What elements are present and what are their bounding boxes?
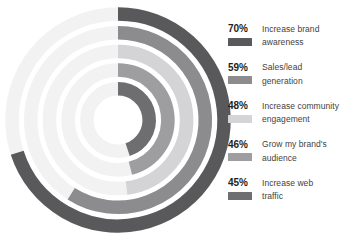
- legend-label-line-1: Increase web: [262, 177, 362, 191]
- legend-key: 70%: [228, 22, 262, 46]
- ring-value-arc[interactable]: Increase web traffic 45%: [118, 89, 149, 150]
- legend-label-line-2: engagement: [262, 113, 362, 127]
- legend-percent: 59%: [228, 61, 248, 74]
- legend-label-line-1: Sales/lead: [262, 61, 362, 75]
- legend-label-line-2: traffic: [262, 190, 362, 204]
- legend-item[interactable]: 48% Increase community engagement: [228, 99, 362, 132]
- legend-key: 45%: [228, 176, 262, 200]
- legend-key: 48%: [228, 99, 262, 123]
- legend-label: Increase brand awareness: [262, 22, 362, 50]
- legend-percent: 45%: [228, 176, 248, 189]
- legend-label: Sales/lead generation: [262, 61, 362, 89]
- radial-bar-chart-figure: Increase brand awareness 70%Sales/lead g…: [0, 0, 362, 236]
- legend-percent: 70%: [228, 22, 248, 35]
- legend-label-line-1: Increase community: [262, 100, 362, 114]
- radial-bar-svg: Increase brand awareness 70%Sales/lead g…: [0, 0, 236, 236]
- chart-legend: 70% Increase brand awareness 59% Sales/l…: [228, 22, 362, 222]
- legend-label-line-2: audience: [262, 152, 362, 166]
- legend-item[interactable]: 45% Increase web traffic: [228, 176, 362, 209]
- legend-label-line-2: awareness: [262, 36, 362, 50]
- rings-group: Increase brand awareness 70%Sales/lead g…: [12, 14, 224, 226]
- legend-color-swatch: [228, 76, 252, 84]
- legend-label-line-2: generation: [262, 75, 362, 89]
- legend-key: 59%: [228, 61, 262, 85]
- legend-key: 46%: [228, 138, 262, 162]
- legend-label-line-1: Grow my brand's: [262, 138, 362, 152]
- legend-label-line-1: Increase brand: [262, 23, 362, 37]
- legend-color-swatch: [228, 153, 252, 161]
- legend-label: Increase web traffic: [262, 176, 362, 204]
- legend-item[interactable]: 70% Increase brand awareness: [228, 22, 362, 55]
- legend-percent: 46%: [228, 138, 248, 151]
- legend-item[interactable]: 59% Sales/lead generation: [228, 61, 362, 94]
- legend-color-swatch: [228, 38, 252, 46]
- legend-color-swatch: [228, 192, 252, 200]
- legend-item[interactable]: 46% Grow my brand's audience: [228, 138, 362, 171]
- chart-plot-area: Increase brand awareness 70%Sales/lead g…: [0, 0, 236, 236]
- legend-label: Increase community engagement: [262, 99, 362, 127]
- legend-percent: 48%: [228, 99, 248, 112]
- legend-color-swatch: [228, 115, 252, 123]
- legend-label: Grow my brand's audience: [262, 138, 362, 166]
